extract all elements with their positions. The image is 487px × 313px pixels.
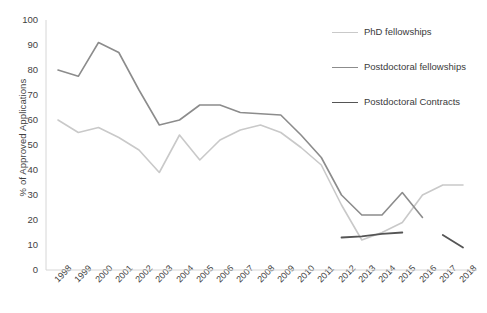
legend-item[interactable]: PhD fellowships [332, 26, 484, 38]
legend-color-swatch [332, 67, 358, 68]
line-chart: % of Approved Applications 1009080706050… [0, 0, 487, 313]
legend-label: PhD fellowships [364, 27, 432, 37]
legend-label: Postdoctoral fellowships [364, 62, 466, 72]
legend-item[interactable]: Postdoctoral fellowships [332, 61, 484, 73]
legend-color-swatch [332, 102, 358, 103]
legend-item[interactable]: Postdoctoral Contracts [332, 96, 484, 108]
chart-legend: PhD fellowshipsPostdoctoral fellowshipsP… [332, 26, 484, 131]
legend-color-swatch [332, 32, 358, 33]
series-line [58, 120, 463, 240]
legend-label: Postdoctoral Contracts [364, 97, 460, 107]
series-line [443, 235, 463, 248]
